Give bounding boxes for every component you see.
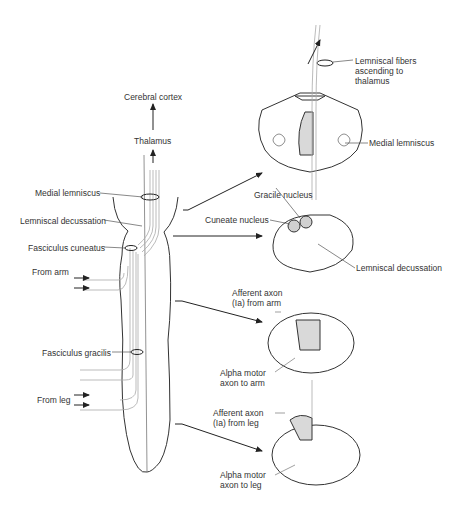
label-cerebral-cortex: Cerebral cortex	[124, 92, 182, 102]
label-lemniscal-decussation-right: Lemniscal decussation	[356, 263, 442, 273]
label-fasciculus-cuneatus: Fasciculus cuneatus	[28, 243, 105, 253]
label-lemniscal-decussation-left: Lemniscal decussation	[20, 216, 106, 226]
label-fasciculus-gracilis: Fasciculus gracilis	[42, 348, 111, 358]
label-from-arm: From arm	[32, 267, 69, 277]
label-gracile-nucleus: Gracile nucleus	[254, 190, 313, 200]
label-alpha-arm: Alpha motor axon to arm	[220, 368, 266, 388]
input-arrows	[74, 278, 89, 405]
label-afferent-leg: Afferent axon (Ia) from leg	[213, 408, 263, 428]
midline	[144, 155, 147, 472]
label-alpha-leg: Alpha motor axon to leg	[220, 470, 266, 490]
label-afferent-arm: Afferent axon (Ia) from arm	[232, 288, 282, 308]
label-thalamus: Thalamus	[134, 136, 171, 146]
label-leaders	[100, 193, 143, 352]
lumbar-cord-section	[272, 415, 360, 485]
ascending-fibers	[80, 170, 159, 410]
label-from-leg: From leg	[37, 395, 71, 405]
upper-medulla-section	[259, 93, 363, 172]
label-medial-lemniscus-right: Medial lemniscus	[369, 138, 434, 148]
cervical-cord-section	[268, 313, 354, 373]
label-lemniscal-fibers: Lemniscal fibers ascending to thalamus	[355, 56, 416, 86]
label-cuneate-nucleus: Cuneate nucleus	[205, 215, 269, 225]
label-medial-lemniscus-left: Medial lemniscus	[35, 188, 100, 198]
lower-medulla-section	[273, 215, 353, 272]
